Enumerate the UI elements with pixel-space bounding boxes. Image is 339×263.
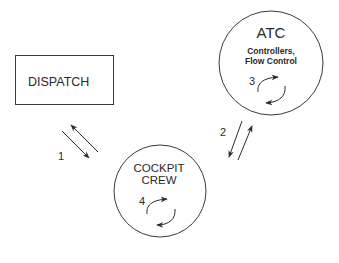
atc-subtitle-line1: Controllers, bbox=[247, 46, 295, 56]
arrow-to-cockpit bbox=[62, 131, 89, 158]
diagram-canvas: DISPATCH ATC Controllers, Flow Control 3… bbox=[0, 0, 339, 263]
dispatch-node: DISPATCH bbox=[16, 56, 114, 105]
atc-node: ATC Controllers, Flow Control 3 bbox=[219, 11, 323, 115]
cockpit-crew-node: COCKPIT CREW 4 bbox=[114, 145, 206, 237]
atc-title: ATC bbox=[257, 24, 286, 41]
cockpit-line1: COCKPIT bbox=[133, 162, 184, 174]
arrow-to-atc bbox=[238, 126, 252, 160]
cockpit-cycle-icon bbox=[147, 199, 175, 225]
link-1-arrows: 1 bbox=[58, 125, 98, 162]
link-2-label: 2 bbox=[220, 126, 226, 138]
atc-loop-label: 3 bbox=[249, 75, 255, 87]
arrow-to-cockpit bbox=[229, 121, 242, 157]
atc-cycle-icon bbox=[258, 77, 285, 103]
cockpit-loop-label: 4 bbox=[139, 195, 145, 207]
dispatch-label: DISPATCH bbox=[28, 75, 89, 89]
arrow-to-dispatch bbox=[71, 125, 98, 152]
link-2-arrows: 2 bbox=[220, 121, 252, 160]
atc-subtitle-line2: Flow Control bbox=[245, 56, 297, 66]
cockpit-line2: CREW bbox=[141, 174, 176, 186]
link-1-label: 1 bbox=[58, 150, 64, 162]
